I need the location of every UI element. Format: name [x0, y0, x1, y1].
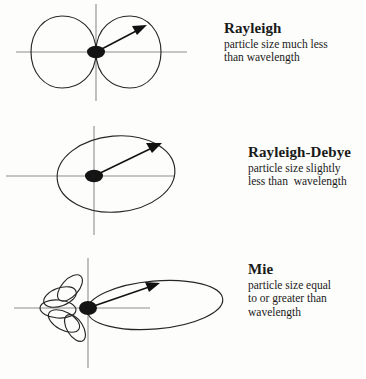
rayleigh-debye-caption: Rayleigh-Debye particle size slightly le… — [248, 144, 366, 189]
scattering-figure: Rayleigh particle size much less than wa… — [0, 0, 366, 379]
incident-ray-arrowhead — [132, 25, 147, 35]
mie-description-line-2: to or greater than — [248, 292, 366, 305]
side-petal-5 — [60, 311, 89, 345]
rayleigh-debye-diagram — [0, 122, 232, 250]
particle-marker — [79, 301, 97, 315]
particle-marker — [85, 170, 103, 182]
mie-description-line-1: particle size equal — [248, 279, 366, 292]
regime-row-mie: Mie particle size equal to or greater th… — [0, 250, 366, 379]
rayleigh-description-line-1: particle size much less — [224, 38, 360, 51]
incident-ray-arrowhead — [146, 143, 162, 153]
incident-ray-arrowhead — [145, 282, 160, 292]
rayleigh-title: Rayleigh — [224, 20, 360, 37]
incident-ray-line — [94, 147, 154, 176]
particle-marker — [87, 46, 105, 58]
mie-title: Mie — [248, 261, 366, 278]
rayleigh-description-line-2: than wavelength — [224, 51, 360, 64]
mie-description-line-3: wavelength — [248, 306, 366, 319]
rayleigh-diagram — [0, 0, 232, 122]
rayleigh-debye-title: Rayleigh-Debye — [248, 144, 366, 161]
rayleigh-debye-description-line-1: particle size slightly — [248, 162, 366, 175]
regime-row-rayleigh: Rayleigh particle size much less than wa… — [0, 0, 366, 122]
rayleigh-debye-description-line-2: less than wavelength — [248, 175, 366, 188]
mie-caption: Mie particle size equal to or greater th… — [248, 261, 366, 319]
rayleigh-caption: Rayleigh particle size much less than wa… — [224, 20, 360, 65]
regime-row-rayleigh-debye: Rayleigh-Debye particle size slightly le… — [0, 122, 366, 250]
mie-diagram — [0, 250, 232, 379]
